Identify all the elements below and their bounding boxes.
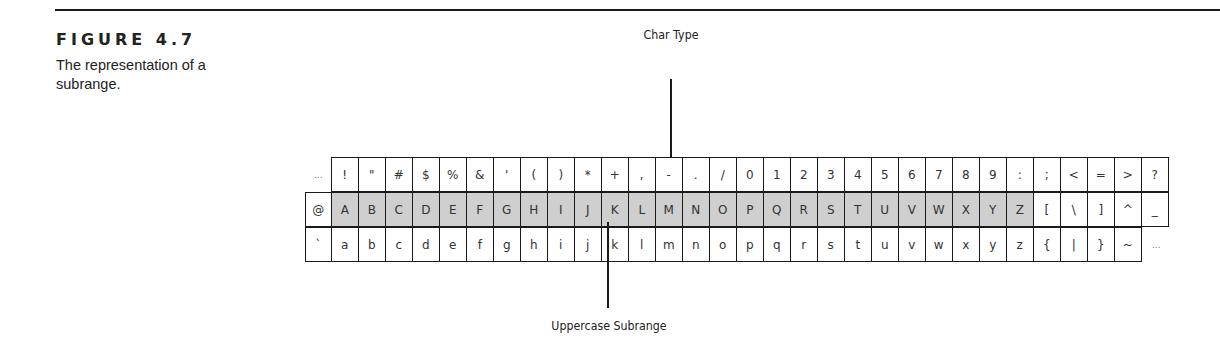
grid-cell: u — [871, 227, 900, 262]
grid-row-punctuation-digits: ...!"#$%&'()*+,-./0123456789:;<=>? — [306, 157, 1169, 192]
grid-cell-highlighted: N — [682, 192, 711, 227]
grid-cell: y — [979, 227, 1008, 262]
grid-cell: c — [385, 227, 414, 262]
grid-cell-highlighted: B — [358, 192, 387, 227]
uppercase-subrange-pointer-line — [607, 222, 609, 308]
grid-cell: 0 — [736, 157, 765, 192]
grid-cell-highlighted: M — [655, 192, 684, 227]
grid-cell: | — [1060, 227, 1089, 262]
top-rule — [55, 9, 1220, 11]
grid-cell-highlighted: G — [493, 192, 522, 227]
grid-cell: w — [925, 227, 954, 262]
grid-cell: q — [763, 227, 792, 262]
grid-cell: , — [628, 157, 657, 192]
grid-cell: ` — [305, 227, 333, 262]
grid-cell-highlighted: K — [601, 192, 630, 227]
grid-cell: 2 — [790, 157, 819, 192]
grid-cell-highlighted: Y — [979, 192, 1008, 227]
grid-cell: x — [952, 227, 981, 262]
grid-cell-highlighted: X — [952, 192, 981, 227]
grid-cell: { — [1033, 227, 1062, 262]
grid-cell: b — [358, 227, 387, 262]
grid-cell-highlighted: S — [817, 192, 846, 227]
grid-cell: n — [682, 227, 711, 262]
grid-cell-highlighted: C — [385, 192, 414, 227]
grid-cell: = — [1087, 157, 1116, 192]
grid-cell: 1 — [763, 157, 792, 192]
grid-cell: 7 — [925, 157, 954, 192]
grid-cell: 3 — [817, 157, 846, 192]
grid-cell: $ — [412, 157, 441, 192]
grid-cell: 9 — [979, 157, 1008, 192]
grid-cell: v — [898, 227, 927, 262]
grid-cell: ! — [331, 157, 360, 192]
figure-caption: The representation of a subrange. — [56, 56, 246, 94]
grid-cell: f — [466, 227, 495, 262]
grid-cell-highlighted: O — [709, 192, 738, 227]
grid-cell: j — [574, 227, 603, 262]
grid-cell: 5 — [871, 157, 900, 192]
grid-cell: @ — [305, 192, 333, 227]
grid-cell: d — [412, 227, 441, 262]
grid-cell: / — [709, 157, 738, 192]
grid-cell-highlighted: R — [790, 192, 819, 227]
grid-cell: : — [1006, 157, 1035, 192]
grid-cell: 6 — [898, 157, 927, 192]
char-type-pointer-line — [670, 79, 672, 164]
grid-cell: ? — [1141, 157, 1170, 192]
grid-cell: e — [439, 227, 468, 262]
grid-cell-highlighted: W — [925, 192, 954, 227]
grid-cell: . — [682, 157, 711, 192]
grid-cell-highlighted: Q — [763, 192, 792, 227]
grid-cell: s — [817, 227, 846, 262]
grid-cell: % — [439, 157, 468, 192]
grid-cell: ; — [1033, 157, 1062, 192]
grid-cell-highlighted: Z — [1006, 192, 1035, 227]
grid-cell-highlighted: V — [898, 192, 927, 227]
grid-cell-highlighted: F — [466, 192, 495, 227]
grid-cell: ^ — [1114, 192, 1143, 227]
uppercase-subrange-label: Uppercase Subrange — [551, 318, 666, 333]
grid-cell: o — [709, 227, 738, 262]
grid-cell: - — [655, 157, 684, 192]
grid-cell: m — [655, 227, 684, 262]
grid-cell-highlighted: L — [628, 192, 657, 227]
grid-cell: " — [358, 157, 387, 192]
grid-cell-highlighted: H — [520, 192, 549, 227]
grid-cell: z — [1006, 227, 1035, 262]
grid-cell-highlighted: T — [844, 192, 873, 227]
grid-cell: 4 — [844, 157, 873, 192]
grid-cell: r — [790, 227, 819, 262]
grid-cell: * — [574, 157, 603, 192]
grid-cell-highlighted: E — [439, 192, 468, 227]
grid-cell-highlighted: P — [736, 192, 765, 227]
grid-cell: p — [736, 227, 765, 262]
grid-cell: 8 — [952, 157, 981, 192]
grid-cell: i — [547, 227, 576, 262]
grid-cell: k — [601, 227, 630, 262]
grid-cell: ~ — [1114, 227, 1143, 262]
grid-cell: \ — [1060, 192, 1089, 227]
grid-cell: > — [1114, 157, 1143, 192]
grid-cell: < — [1060, 157, 1089, 192]
grid-cell-highlighted: J — [574, 192, 603, 227]
grid-cell: _ — [1141, 192, 1170, 227]
char-type-label: Char Type — [644, 27, 699, 42]
grid-cell: h — [520, 227, 549, 262]
grid-cell: ... — [305, 157, 333, 192]
grid-cell: ] — [1087, 192, 1116, 227]
grid-cell: l — [628, 227, 657, 262]
grid-cell-highlighted: U — [871, 192, 900, 227]
grid-cell: ... — [1142, 227, 1171, 262]
grid-cell: [ — [1033, 192, 1062, 227]
grid-cell-highlighted: A — [331, 192, 360, 227]
grid-cell-highlighted: D — [412, 192, 441, 227]
grid-cell: } — [1087, 227, 1116, 262]
figure-label: FIGURE 4.7 — [56, 30, 196, 49]
grid-cell: a — [331, 227, 360, 262]
grid-cell: ' — [493, 157, 522, 192]
grid-cell: # — [385, 157, 414, 192]
grid-cell: + — [601, 157, 630, 192]
grid-cell: g — [493, 227, 522, 262]
grid-cell-highlighted: I — [547, 192, 576, 227]
